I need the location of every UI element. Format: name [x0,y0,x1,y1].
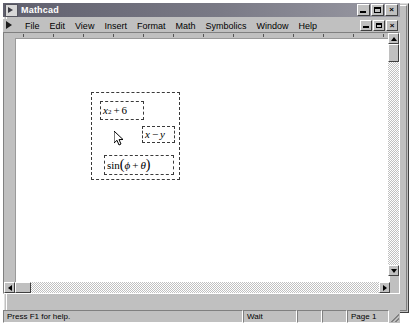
document-control-icon[interactable] [5,20,17,31]
vertical-scrollbar[interactable] [388,33,399,276]
scroll-up-button[interactable] [388,33,399,44]
window-title: Mathcad [21,5,357,15]
mathcad-icon[interactable] [5,4,18,17]
scroll-left-arrow [8,285,12,291]
maximize-button[interactable] [371,4,384,16]
menu-item-file[interactable]: File [20,20,45,32]
doc-restore-button[interactable] [373,20,385,31]
client-area: x2+6 x−y sin(ϕ+θ) [3,32,400,294]
horizontal-scroll-thumb[interactable] [15,282,31,293]
horizontal-scrollbar[interactable] [4,282,390,293]
math-close-paren: ) [146,158,151,172]
status-page-indicator: Page 1 [347,310,389,323]
scroll-down-button[interactable] [388,265,399,276]
math-operator-minus: − [152,129,158,140]
doc-close-button[interactable]: × [386,20,398,31]
vertical-scroll-thumb[interactable] [388,44,399,62]
menu-item-insert[interactable]: Insert [99,20,132,32]
title-bar[interactable]: Mathcad × [3,3,400,17]
worksheet-page[interactable]: x2+6 x−y sin(ϕ+θ) [15,38,390,288]
math-expression-difference: x−y [145,129,165,140]
math-operand-x: x [145,129,150,140]
status-help-text: Press F1 for help. [3,310,243,323]
math-region-difference[interactable]: x−y [142,126,175,143]
mathcad-screenshot: Mathcad × File Edit View Insert Format M… [0,0,417,326]
resize-grip-icon[interactable] [389,310,400,323]
math-region-quadratic[interactable]: x2+6 [100,101,144,120]
math-operator-plus: + [113,105,119,116]
scroll-down-arrow [391,269,397,273]
math-region-sine[interactable]: sin(ϕ+θ) [104,155,174,175]
scroll-right-arrow [383,285,387,291]
math-operand-6: 6 [122,105,128,116]
doc-minimize-button[interactable] [360,20,372,31]
menu-bar: File Edit View Insert Format Math Symbol… [3,19,400,32]
status-bar: Press F1 for help. Wait Page 1 [3,310,400,323]
math-operator-plus: + [132,160,138,171]
status-cell-a [297,310,322,323]
status-message: Wait [243,310,297,323]
menu-item-edit[interactable]: Edit [45,20,71,32]
selection-marquee[interactable]: x2+6 x−y sin(ϕ+θ) [91,92,180,180]
menu-item-help[interactable]: Help [293,20,322,32]
window-controls: × [357,4,398,16]
math-symbol-phi: ϕ [125,160,131,171]
math-expression-sine: sin(ϕ+θ) [107,158,151,172]
scroll-up-arrow [391,37,397,41]
math-expression-quadratic: x2+6 [103,105,127,116]
close-button[interactable]: × [385,4,398,16]
math-operand-y: y [160,129,165,140]
math-function-sin: sin [107,160,120,171]
status-cell-b [322,310,347,323]
scroll-right-button[interactable] [379,282,390,293]
menu-item-view[interactable]: View [70,20,99,32]
menu-item-window[interactable]: Window [251,20,293,32]
menu-item-symbolics[interactable]: Symbolics [200,20,251,32]
minimize-button[interactable] [357,4,370,16]
document-window-controls: × [360,20,398,31]
menu-item-math[interactable]: Math [170,20,200,32]
menu-item-format[interactable]: Format [132,20,171,32]
menu-items: File Edit View Insert Format Math Symbol… [20,20,360,32]
scroll-left-button[interactable] [4,282,15,293]
